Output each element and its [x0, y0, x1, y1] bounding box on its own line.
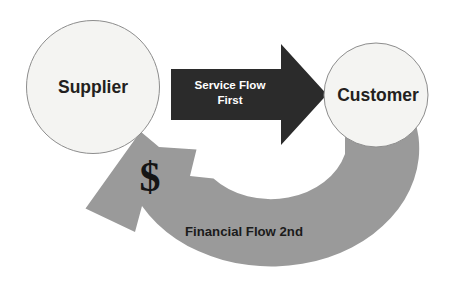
service-flow-arrow[interactable]	[171, 44, 327, 145]
dollar-sign-icon: $	[140, 154, 161, 200]
customer-label: Customer	[337, 85, 419, 105]
node-customer[interactable]: Customer	[324, 43, 428, 147]
flow-diagram: Supplier Customer Service Flow First $ F…	[0, 0, 452, 286]
service-flow-label-line2: First	[217, 93, 242, 106]
node-supplier[interactable]: Supplier	[27, 21, 160, 154]
service-flow-arrow-shape	[171, 44, 327, 145]
supplier-label: Supplier	[58, 77, 128, 97]
flow-diagram-canvas: Supplier Customer Service Flow First $ F…	[0, 0, 452, 286]
service-flow-label-line1: Service Flow	[195, 78, 267, 91]
financial-flow-label: Financial Flow 2nd	[185, 224, 303, 239]
